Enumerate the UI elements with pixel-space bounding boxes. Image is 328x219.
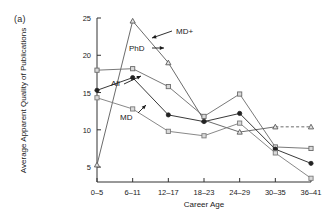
x-tick-label: 30–35	[265, 188, 286, 197]
series-segment	[240, 94, 276, 147]
y-tick-label: 5	[71, 163, 91, 172]
x-tick-label: 24–29	[229, 188, 250, 197]
y-tick-label: 20	[71, 51, 91, 60]
series-segment	[133, 109, 169, 131]
data-point-marker	[130, 18, 135, 23]
line-chart-plot	[0, 0, 328, 219]
x-tick-label: 18–23	[194, 188, 215, 197]
series-segment	[97, 21, 133, 165]
series-segment	[204, 113, 240, 121]
data-point-marker	[95, 96, 99, 100]
data-point-marker	[238, 92, 242, 96]
series-segment	[97, 98, 133, 109]
data-point-marker	[131, 67, 135, 71]
data-point-marker	[94, 162, 99, 167]
data-point-marker	[309, 176, 313, 180]
series-segment	[133, 78, 169, 115]
data-point-marker	[202, 134, 206, 138]
series-md	[95, 96, 313, 181]
series-segment	[275, 147, 311, 148]
series-segment	[204, 120, 240, 132]
data-point-marker	[95, 68, 99, 72]
series-label-md: MD	[120, 113, 132, 122]
y-tick-label: 10	[71, 125, 91, 134]
figure-panel-a: (a) Average Apparent Quality of Publicat…	[0, 0, 328, 219]
data-point-marker	[309, 146, 313, 150]
series-segment	[204, 123, 240, 136]
series-mdplus	[94, 18, 313, 167]
series-label-mdplus: MD+	[176, 27, 193, 36]
series-label-phd: PhD	[129, 44, 145, 53]
series-label-all: All	[111, 79, 120, 88]
y-tick-label: 25	[71, 14, 91, 23]
data-point-marker	[166, 113, 170, 117]
data-point-marker	[202, 114, 206, 118]
data-point-marker	[273, 151, 277, 155]
x-tick-label: 0–5	[91, 188, 104, 197]
data-point-marker	[238, 121, 242, 125]
data-point-marker	[238, 111, 242, 115]
y-tick-label: 15	[71, 88, 91, 97]
series-segment	[133, 21, 169, 63]
series-segment	[97, 69, 133, 70]
annotation-arrow-head	[152, 35, 157, 39]
series-segment	[168, 115, 204, 122]
data-point-marker	[166, 129, 170, 133]
series-segment	[168, 131, 204, 135]
x-tick-label: 36–41	[301, 188, 322, 197]
annotation-arrow-head	[160, 46, 164, 50]
data-point-marker	[202, 120, 206, 124]
data-point-marker	[131, 107, 135, 111]
data-point-marker	[166, 84, 170, 88]
x-tick-label: 6–11	[125, 188, 141, 197]
data-point-marker	[95, 88, 99, 92]
data-point-marker	[309, 161, 313, 165]
series-segment	[204, 94, 240, 116]
x-tick-label: 12–17	[158, 188, 179, 197]
